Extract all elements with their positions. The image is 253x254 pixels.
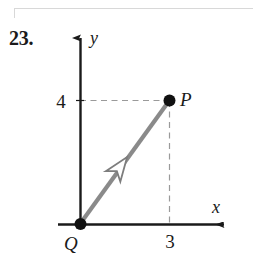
y-tick-label-4: 4 (56, 91, 66, 112)
point-marker-q (75, 218, 87, 230)
point-marker-p (164, 95, 176, 107)
point-label-p: P (179, 89, 192, 110)
y-axis-label: y (88, 28, 98, 48)
x-axis-label: x (211, 197, 220, 217)
coordinate-plot: y x 4 3 P Q (0, 0, 253, 254)
point-label-q: Q (64, 233, 78, 254)
figure-container: 23. y x 4 (0, 0, 253, 254)
x-tick-label-3: 3 (165, 231, 175, 252)
